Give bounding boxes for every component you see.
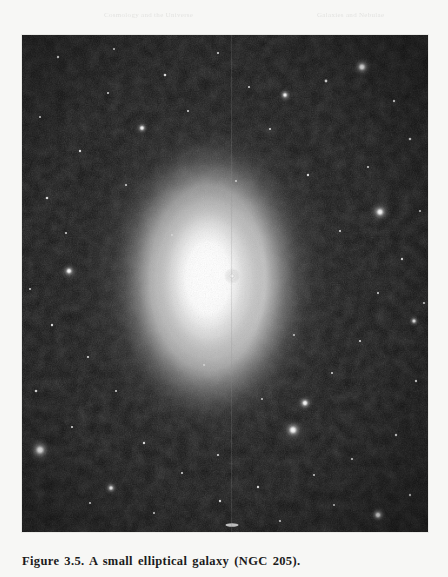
plate-vignette: [22, 35, 428, 532]
figure-plate: [22, 35, 428, 532]
astronomical-photograph: [22, 35, 428, 532]
running-header: Cosmology and the Universe Galaxies and …: [0, 11, 448, 25]
figure-caption: Figure 3.5. A small elliptical galaxy (N…: [22, 554, 432, 569]
running-header-right: Galaxies and Nebulae: [317, 11, 384, 19]
running-header-left: Cosmology and the Universe: [104, 11, 193, 19]
book-page: Cosmology and the Universe Galaxies and …: [0, 0, 448, 577]
